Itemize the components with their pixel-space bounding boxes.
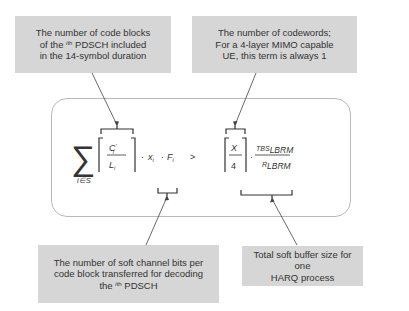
leader-line-soft-bits [146, 197, 167, 245]
leader-line-code-blocks [92, 73, 117, 125]
dot-operator: · [141, 152, 144, 162]
brace-top-x4 [226, 126, 245, 134]
leader-line-soft-buffer [272, 199, 297, 245]
fraction-denominator: Li [109, 160, 116, 171]
brace-bottom-xf [158, 188, 177, 196]
tbs-lbrm: TBSLBRM [256, 145, 294, 155]
dot-operator: · [161, 152, 164, 162]
sum-symbol: ∑ [71, 139, 95, 178]
sum-subscript: i∈S [77, 176, 91, 185]
dot-operator: · [250, 152, 253, 162]
x-variable: xi [147, 152, 155, 163]
fraction-numerator: C′i [109, 143, 118, 155]
x4-numerator: X [230, 143, 238, 153]
f-variable: Fi [167, 152, 175, 163]
greater-than-operator: > [190, 152, 195, 162]
brace-bottom-tbs-r [241, 190, 292, 198]
leader-line-codewords [235, 73, 256, 125]
r-lbrm: RLBRM [262, 161, 292, 171]
x4-denominator: 4 [231, 161, 236, 171]
formula-diagram: ∑ i∈S C′i Li · xi · Fi > X 4 · TBSLBRM R… [0, 0, 409, 311]
brace-top-fraction [101, 126, 133, 134]
